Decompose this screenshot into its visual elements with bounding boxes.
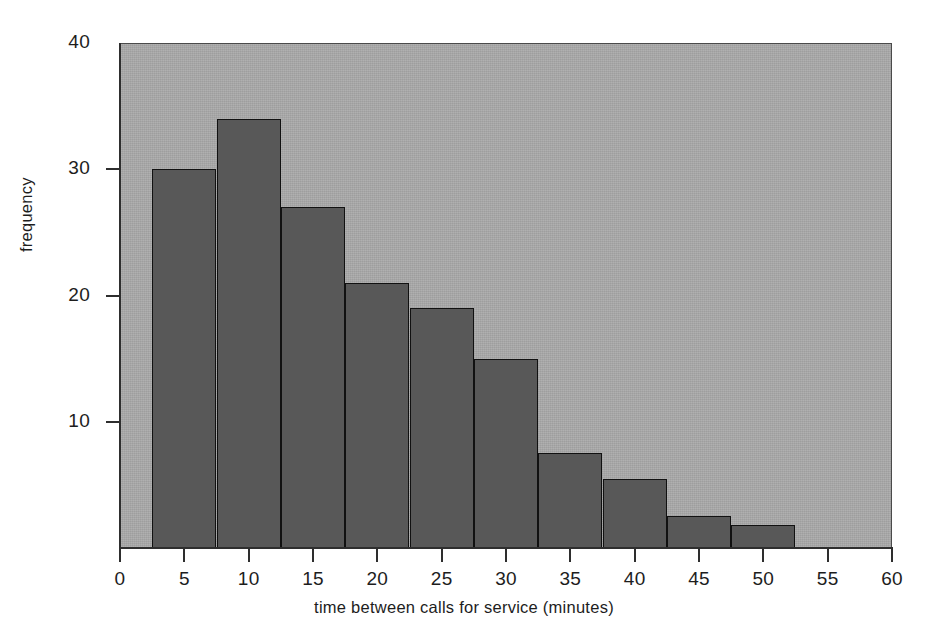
- x-axis-tick-label: 15: [293, 568, 333, 590]
- x-axis-tick-label: 10: [229, 568, 269, 590]
- x-axis-tick-label: 45: [679, 568, 719, 590]
- histogram-bar: [345, 283, 409, 548]
- histogram-bar: [538, 453, 602, 548]
- x-axis-tick-mark: [634, 549, 636, 562]
- y-axis-tick-label: 30: [48, 157, 90, 179]
- histogram-bar: [667, 516, 731, 548]
- x-axis-tick-label: 20: [357, 568, 397, 590]
- histogram-bar: [603, 479, 667, 548]
- histogram-bar: [217, 119, 281, 548]
- x-axis-tick-mark: [698, 549, 700, 562]
- x-axis-tick-label: 30: [486, 568, 526, 590]
- x-axis-tick-mark: [505, 549, 507, 562]
- histogram-bar: [281, 207, 345, 548]
- x-axis-tick-label: 40: [615, 568, 655, 590]
- x-axis-tick-mark: [762, 549, 764, 562]
- x-axis-tick-label: 5: [164, 568, 204, 590]
- histogram-figure: 10203040 051015202530354045505560 time b…: [0, 0, 928, 643]
- x-axis-tick-mark: [569, 549, 571, 562]
- x-axis-label: time between calls for service (minutes): [0, 598, 928, 617]
- y-axis-label: frequency: [17, 177, 36, 252]
- histogram-bar: [410, 308, 474, 548]
- x-axis-tick-mark: [183, 549, 185, 562]
- x-axis-tick-mark: [376, 549, 378, 562]
- y-axis-tick-label: 40: [48, 31, 90, 53]
- x-axis-tick-label: 55: [808, 568, 848, 590]
- x-axis-tick-mark: [119, 549, 121, 562]
- y-axis-tick-label: 10: [48, 410, 90, 432]
- x-axis-tick-mark: [441, 549, 443, 562]
- x-axis-tick-label: 50: [743, 568, 783, 590]
- y-axis-tick-mark: [106, 168, 119, 170]
- x-axis-tick-label: 25: [422, 568, 462, 590]
- x-axis-tick-mark: [891, 549, 893, 562]
- histogram-bar: [731, 525, 795, 548]
- x-axis-tick-mark: [248, 549, 250, 562]
- histogram-bar: [152, 169, 216, 548]
- y-axis-tick-mark: [106, 421, 119, 423]
- y-axis-tick-mark: [106, 295, 119, 297]
- x-axis-tick-mark: [827, 549, 829, 562]
- y-axis-tick-label: 20: [48, 284, 90, 306]
- x-axis-tick-label: 0: [100, 568, 140, 590]
- y-axis-line: [119, 43, 121, 549]
- x-axis-tick-mark: [312, 549, 314, 562]
- x-axis-tick-label: 35: [550, 568, 590, 590]
- histogram-bar: [474, 359, 538, 548]
- bar-series: [120, 43, 892, 548]
- x-axis-tick-label: 60: [872, 568, 912, 590]
